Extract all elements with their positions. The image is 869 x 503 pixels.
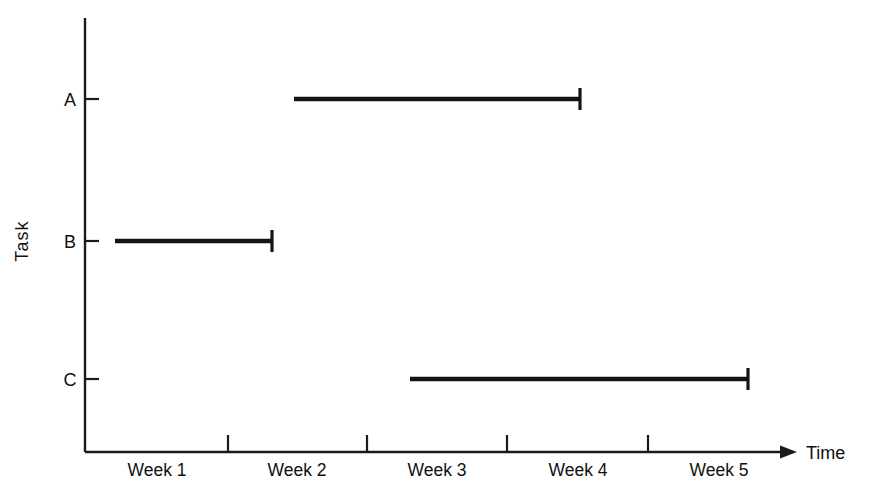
x-tick-label-week-1: Week 1: [127, 460, 186, 480]
task-bar-a[interactable]: [294, 88, 581, 110]
axis-group: [85, 18, 797, 459]
task-bar-b[interactable]: [115, 230, 273, 252]
x-axis-title: Time: [806, 443, 845, 463]
chart-canvas: A B C Task Week 1 Week 2 Week 3 Week 4 W…: [0, 0, 869, 503]
x-axis-tick-labels: Week 1 Week 2 Week 3 Week 4 Week 5: [127, 460, 748, 480]
x-axis-arrow-icon: [780, 446, 797, 459]
gantt-chart-figure: A B C Task Week 1 Week 2 Week 3 Week 4 W…: [0, 0, 869, 503]
x-tick-label-week-3: Week 3: [407, 460, 466, 480]
x-tick-label-week-5: Week 5: [689, 460, 748, 480]
y-axis-ticks: [85, 99, 99, 379]
y-tick-label-task-c: C: [64, 370, 77, 390]
x-tick-label-week-2: Week 2: [267, 460, 326, 480]
x-tick-label-week-4: Week 4: [548, 460, 607, 480]
task-bar-c[interactable]: [410, 368, 749, 390]
y-tick-label-task-b: B: [64, 232, 76, 252]
y-axis-tick-labels: A B C: [64, 90, 77, 390]
task-bars-group: [115, 88, 749, 390]
y-axis-title: Task: [12, 220, 32, 261]
y-tick-label-task-a: A: [64, 90, 76, 110]
x-axis-ticks: [228, 435, 648, 452]
